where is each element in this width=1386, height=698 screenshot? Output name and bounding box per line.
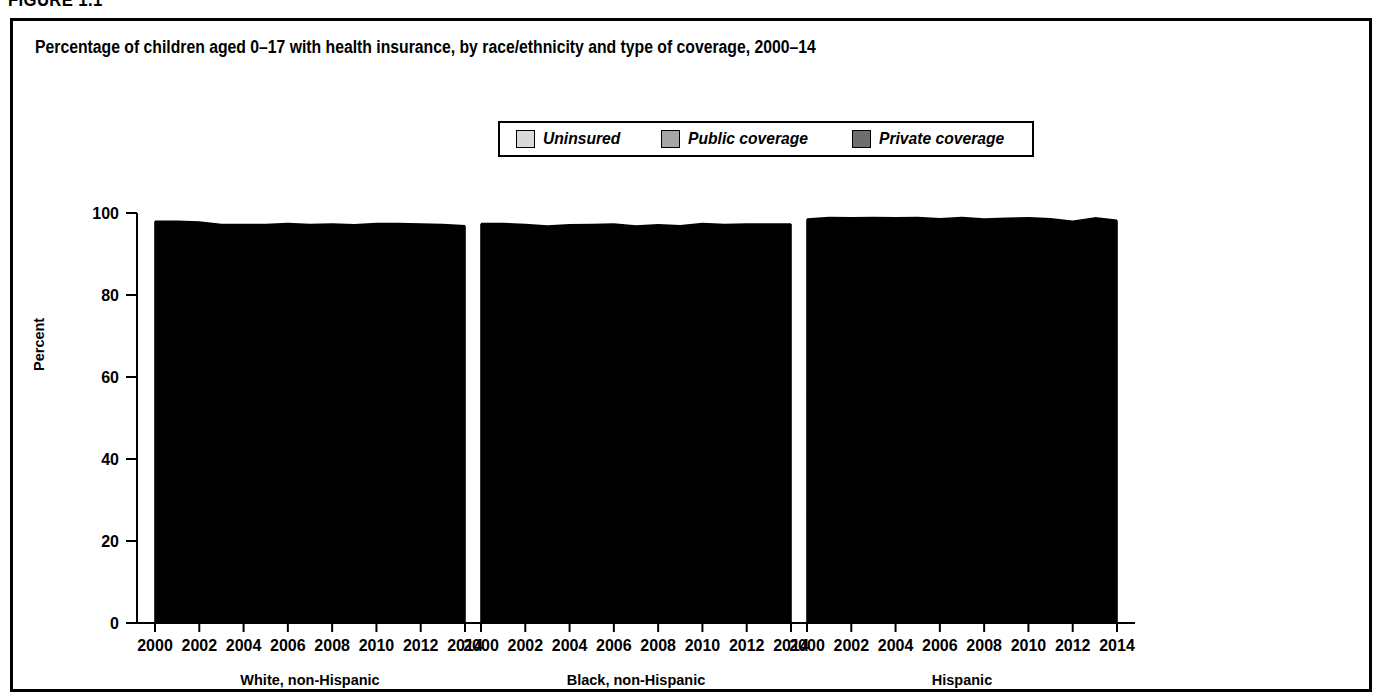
figure-page: FIGURE 1.1 Percentage of children aged 0… [0, 0, 1386, 698]
x-axis-tick-label: 2008 [966, 637, 1002, 654]
x-axis-tick-label: 2002 [507, 637, 543, 654]
x-axis-tick-label: 2002 [181, 637, 217, 654]
panel-title: Black, non-Hispanic [567, 672, 706, 688]
x-axis-tick-label: 2010 [359, 637, 395, 654]
x-axis-tick-label: 2000 [789, 637, 825, 654]
x-axis-tick-label: 2012 [729, 637, 765, 654]
x-axis-tick-label: 2010 [685, 637, 721, 654]
chart-panel: 20002002200420062008201020122014White, n… [137, 221, 483, 688]
area-private-coverage [155, 221, 465, 538]
x-axis-tick-label: 2006 [270, 637, 306, 654]
chart-panel: 20002002200420062008201020122014Black, n… [463, 224, 809, 688]
panel-title: Hispanic [932, 672, 992, 688]
y-axis-tick-label: 60 [101, 369, 119, 386]
figure-frame: Percentage of children aged 0–17 with he… [10, 18, 1372, 692]
x-axis-tick-label: 2004 [226, 637, 262, 654]
x-axis-tick-label: 2012 [403, 637, 439, 654]
x-axis-tick-label: 2008 [314, 637, 350, 654]
figure-number-label: FIGURE 1.1 [8, 0, 103, 11]
x-axis-tick-label: 2000 [463, 637, 499, 654]
y-axis-tick-label: 20 [101, 533, 119, 550]
x-axis-tick-label: 2010 [1011, 637, 1047, 654]
x-axis-tick-label: 2004 [878, 637, 914, 654]
x-axis-tick-label: 2008 [640, 637, 676, 654]
y-axis-tick-label: 80 [101, 287, 119, 304]
y-axis-tick-label: 40 [101, 451, 119, 468]
x-axis-tick-label: 2014 [1099, 637, 1135, 654]
x-axis-tick-label: 2006 [922, 637, 958, 654]
x-axis-tick-label: 2004 [552, 637, 588, 654]
y-axis: 020406080100 [92, 205, 137, 632]
x-axis-tick-label: 2000 [137, 637, 173, 654]
y-axis-tick-label: 100 [92, 205, 119, 222]
x-axis-tick-label: 2012 [1055, 637, 1091, 654]
chart-panel: 20002002200420062008201020122014Hispanic [789, 218, 1135, 688]
chart-plot-area: 20002002200420062008201020122014White, n… [13, 21, 1369, 689]
panel-title: White, non-Hispanic [240, 672, 379, 688]
x-axis-tick-label: 2006 [596, 637, 632, 654]
y-axis-tick-label: 0 [110, 615, 119, 632]
x-axis-tick-label: 2002 [833, 637, 869, 654]
